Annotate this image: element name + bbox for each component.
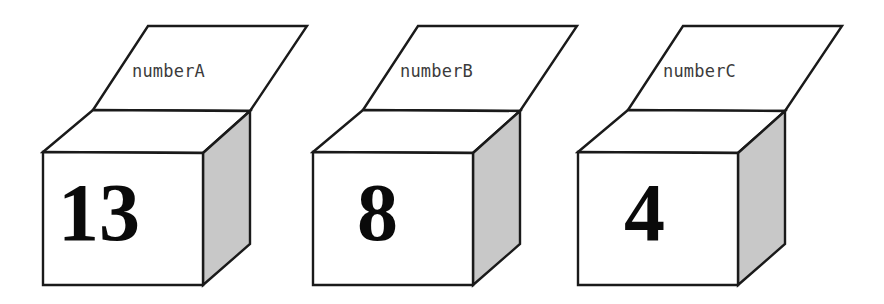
box-value-b: 8 [357,172,398,254]
lid-label-c: numberC [663,61,736,81]
box-shape-c [532,0,862,304]
box-diagram-canvas: numberA 13 numberB 8 numberC 4 [0,0,884,304]
box-group-c: numberC 4 [532,0,862,304]
box-value-a: 13 [58,172,140,254]
lid-label-a: numberA [132,61,205,81]
box-value-c: 4 [624,172,665,254]
lid-label-b: numberB [400,61,473,81]
